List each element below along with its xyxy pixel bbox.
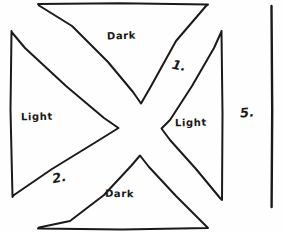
top-triangle-shape — [38, 3, 208, 103]
right-triangle-shape — [162, 31, 223, 200]
region-label-top: Dark — [107, 30, 136, 42]
annotation-number-five: 5. — [239, 105, 254, 121]
region-label-bottom: Dark — [105, 188, 134, 200]
annotation-number-one: 1. — [171, 57, 188, 75]
region-label-right: Light — [175, 117, 207, 129]
region-label-left: Light — [21, 111, 53, 123]
adjacent-figure-left-edge-line — [272, 6, 273, 207]
annotation-number-two: 2. — [51, 169, 68, 186]
figure-canvas: Dark Light Light Dark 1. 2. 5. — [0, 0, 283, 233]
